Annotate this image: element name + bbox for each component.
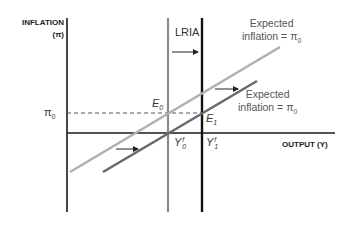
y0f-label: Yf0: [174, 136, 186, 150]
y1f-base: Y: [206, 136, 213, 148]
curve-lower-text: inflation = π: [238, 101, 293, 113]
curve-upper-text: inflation = π: [242, 30, 297, 42]
x-axis-label: OUTPUT (Y): [282, 140, 328, 149]
y1f-sup: f: [214, 136, 218, 143]
e1-label: E1: [206, 112, 217, 126]
curve-lower-label: Expected inflation = π0: [238, 88, 297, 118]
curve-lower-sub: 0: [293, 108, 297, 115]
pi0-label: π0: [44, 106, 56, 120]
pi0-symbol: π: [44, 106, 52, 118]
y-axis-label: INFLATION (π): [20, 17, 64, 41]
y-axis-symbol: (π): [20, 29, 64, 41]
pi0-subscript: 0: [52, 113, 56, 120]
y0f-base: Y: [174, 136, 181, 148]
y-axis-title: INFLATION: [20, 17, 64, 29]
curve-upper-line2: inflation = π0: [242, 30, 301, 47]
y0f-sub: 0: [182, 143, 186, 150]
curve-lower-line1: Expected: [238, 88, 297, 101]
e0-subscript: 0: [159, 104, 163, 111]
curve-upper-line1: Expected: [242, 17, 301, 30]
curve-lower-line2: inflation = π0: [238, 101, 297, 118]
e0-label: E0: [152, 97, 163, 111]
e1-subscript: 1: [213, 119, 217, 126]
y0f-sup: f: [182, 136, 186, 143]
curve-upper-label: Expected inflation = π0: [242, 17, 301, 47]
y1f-sub: 1: [214, 143, 218, 150]
y1f-label: Yf1: [206, 136, 218, 150]
curve-upper-sub: 0: [297, 37, 301, 44]
curve-lower: [103, 81, 257, 172]
lria-label: LRIA: [175, 26, 199, 38]
